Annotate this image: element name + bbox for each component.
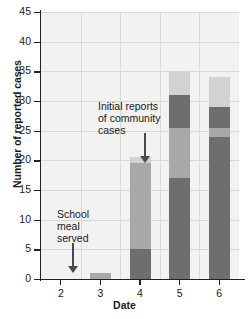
y-tick-label: 10 — [6, 213, 31, 225]
x-tick-label: 4 — [128, 287, 152, 299]
x-gridline — [160, 12, 161, 279]
x-tick-label: 6 — [207, 287, 231, 299]
bar-segment — [209, 107, 230, 128]
bar-segment — [169, 178, 190, 279]
bar-segment — [169, 95, 190, 128]
x-gridline — [120, 12, 121, 279]
x-tick-label: 5 — [168, 287, 192, 299]
annotation-initial-reports: Initial reports of community cases — [98, 100, 160, 137]
annotation-school-meal: School meal served — [57, 208, 89, 245]
x-gridline — [199, 12, 200, 279]
arrow-head — [68, 266, 78, 273]
y-gridline — [41, 12, 239, 13]
annotation-arrow-initial-reports — [139, 133, 151, 163]
y-gridline — [41, 42, 239, 43]
y-axis-line — [40, 10, 41, 281]
y-tick-label: 5 — [6, 242, 31, 254]
bar-segment — [209, 128, 230, 137]
bar-segment — [209, 137, 230, 279]
annotation-arrow-school-meal — [67, 243, 79, 273]
arrow-shaft — [72, 243, 74, 266]
bar-stack[interactable] — [169, 71, 190, 279]
bar-segment — [209, 77, 230, 107]
y-axis-title: Number of reported cases — [11, 44, 23, 204]
bar-segment — [169, 71, 190, 95]
bar-stack[interactable] — [130, 157, 151, 279]
y-tick-label: 45 — [6, 5, 31, 17]
arrow-head — [140, 156, 150, 163]
x-tick-label: 2 — [49, 287, 73, 299]
x-tick-label: 3 — [88, 287, 112, 299]
bar-stack[interactable] — [209, 77, 230, 279]
x-axis-line — [34, 279, 245, 280]
arrow-shaft — [144, 133, 146, 156]
x-axis-title: Date — [0, 299, 249, 311]
y-gridline — [41, 71, 239, 72]
epidemic-curve-chart: 05101520253035404523456School meal serve… — [0, 0, 249, 319]
y-tick-label: 0 — [6, 272, 31, 284]
bar-segment — [169, 128, 190, 178]
bar-segment — [130, 249, 151, 279]
bar-segment — [130, 163, 151, 249]
